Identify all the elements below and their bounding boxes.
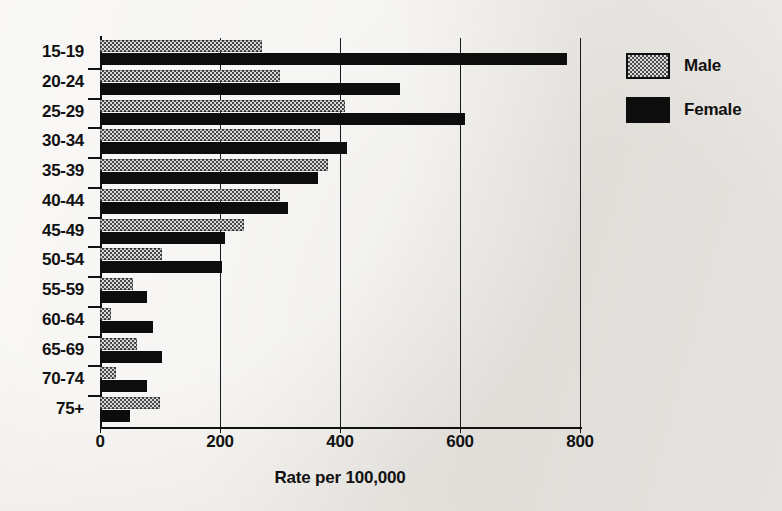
y-axis-label-60-64: 60-64 xyxy=(6,310,84,330)
y-axis-label-75+: 75+ xyxy=(6,399,84,419)
bar-female-45-49 xyxy=(100,232,225,244)
bar-group-65-69 xyxy=(100,338,580,368)
legend-label-female: Female xyxy=(684,100,741,120)
legend-item-female: Female xyxy=(626,88,741,132)
bar-group-15-19 xyxy=(100,40,580,70)
male-swatch-icon xyxy=(626,53,670,79)
bar-group-60-64 xyxy=(100,308,580,338)
bar-male-60-64 xyxy=(100,308,111,320)
y-tick-75+ xyxy=(88,395,100,397)
bar-male-30-34 xyxy=(100,129,320,141)
y-tick-55-59 xyxy=(88,276,100,278)
bar-female-35-39 xyxy=(100,172,318,184)
bar-female-15-19 xyxy=(100,53,567,65)
y-tick-20-24 xyxy=(88,68,100,70)
bar-male-15-19 xyxy=(100,40,262,52)
bar-group-70-74 xyxy=(100,367,580,397)
y-axis-label-50-54: 50-54 xyxy=(6,250,84,270)
y-axis-label-15-19: 15-19 xyxy=(6,42,84,62)
bar-group-50-54 xyxy=(100,248,580,278)
bar-male-65-69 xyxy=(100,338,137,350)
y-tick-60-64 xyxy=(88,306,100,308)
bar-male-45-49 xyxy=(100,219,244,231)
x-tick-label-400: 400 xyxy=(326,432,353,452)
x-tick-label-600: 600 xyxy=(446,432,473,452)
x-tick-label-0: 0 xyxy=(95,432,104,452)
bar-group-75+ xyxy=(100,397,580,427)
bar-female-60-64 xyxy=(100,321,153,333)
bar-male-55-59 xyxy=(100,278,133,290)
bar-female-65-69 xyxy=(100,351,162,363)
bar-female-30-34 xyxy=(100,142,347,154)
y-axis-label-45-49: 45-49 xyxy=(6,221,84,241)
y-tick-25-29 xyxy=(88,98,100,100)
y-axis-label-20-24: 20-24 xyxy=(6,72,84,92)
bar-female-25-29 xyxy=(100,113,465,125)
y-tick-35-39 xyxy=(88,157,100,159)
bar-male-75+ xyxy=(100,397,160,409)
bar-group-35-39 xyxy=(100,159,580,189)
x-axis-title: Rate per 100,000 xyxy=(100,468,580,488)
bar-male-70-74 xyxy=(100,367,116,379)
y-axis-label-40-44: 40-44 xyxy=(6,191,84,211)
female-swatch-icon xyxy=(626,97,670,123)
plot-area xyxy=(100,38,580,425)
y-tick-70-74 xyxy=(88,365,100,367)
bar-male-40-44 xyxy=(100,189,280,201)
y-axis-labels: 15-1920-2425-2930-3435-3940-4445-4950-54… xyxy=(0,0,84,511)
bar-group-20-24 xyxy=(100,70,580,100)
legend-label-male: Male xyxy=(684,56,721,76)
bar-male-20-24 xyxy=(100,70,280,82)
bar-female-75+ xyxy=(100,410,130,422)
y-axis-label-30-34: 30-34 xyxy=(6,131,84,151)
bar-female-20-24 xyxy=(100,83,400,95)
x-axis-line xyxy=(100,427,582,429)
bar-male-50-54 xyxy=(100,248,162,260)
chart-legend: Male Female xyxy=(626,44,741,132)
y-tick-50-54 xyxy=(88,246,100,248)
y-tick-40-44 xyxy=(88,187,100,189)
y-tick-30-34 xyxy=(88,127,100,129)
bar-male-35-39 xyxy=(100,159,328,171)
x-tick-label-200: 200 xyxy=(206,432,233,452)
y-axis-label-70-74: 70-74 xyxy=(6,369,84,389)
bar-group-40-44 xyxy=(100,189,580,219)
gridline-800 xyxy=(580,38,581,427)
bar-group-25-29 xyxy=(100,100,580,130)
bar-group-30-34 xyxy=(100,129,580,159)
bar-male-25-29 xyxy=(100,100,345,112)
y-tick-45-49 xyxy=(88,217,100,219)
y-axis-label-25-29: 25-29 xyxy=(6,102,84,122)
bar-female-40-44 xyxy=(100,202,288,214)
bar-female-50-54 xyxy=(100,261,222,273)
y-tick-65-69 xyxy=(88,336,100,338)
legend-item-male: Male xyxy=(626,44,741,88)
x-tick-label-800: 800 xyxy=(566,432,593,452)
bar-female-55-59 xyxy=(100,291,147,303)
y-axis-label-55-59: 55-59 xyxy=(6,280,84,300)
bar-group-45-49 xyxy=(100,219,580,249)
bar-female-70-74 xyxy=(100,380,147,392)
y-axis-label-35-39: 35-39 xyxy=(6,161,84,181)
y-axis-label-65-69: 65-69 xyxy=(6,340,84,360)
bar-group-55-59 xyxy=(100,278,580,308)
bar-chart: 15-1920-2425-2930-3435-3940-4445-4950-54… xyxy=(0,0,782,511)
